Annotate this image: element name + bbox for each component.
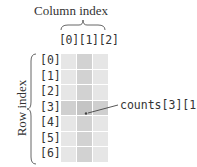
grid-cell-3-2	[93, 101, 108, 116]
grid-cell-3-0	[61, 101, 76, 116]
grid-cell-6-1	[77, 147, 92, 162]
grid-cell-1-1	[77, 70, 92, 85]
row-index-label-0: [0]	[40, 53, 61, 67]
grid-cell-0-1	[77, 54, 92, 69]
row-index-label-4: [4]	[40, 115, 61, 129]
row-index-label-5: [5]	[40, 131, 61, 145]
grid-cell-1-0	[61, 70, 76, 85]
column-axis-title: Column index	[34, 3, 108, 19]
grid-cell-5-2	[93, 132, 108, 147]
grid-cell-4-2	[93, 116, 108, 131]
row-index-label-2: [2]	[40, 84, 61, 98]
grid-cell-6-2	[93, 147, 108, 162]
row-brace-icon	[27, 53, 37, 165]
annotation-label: counts[3][1]	[120, 98, 197, 112]
grid-cell-4-0	[61, 116, 76, 131]
grid-cell-2-1	[77, 85, 92, 100]
row-index-label-3: [3]	[40, 100, 61, 114]
row-index-label-1: [1]	[40, 69, 61, 83]
grid-cell-0-2	[93, 54, 108, 69]
grid-cell-5-1	[77, 132, 92, 147]
grid-cell-2-0	[61, 85, 76, 100]
column-brace-icon	[60, 19, 106, 31]
grid-cell-6-0	[61, 147, 76, 162]
grid-cell-0-0	[61, 54, 76, 69]
grid-cell-5-0	[61, 132, 76, 147]
grid-cell-3-1	[77, 101, 92, 116]
grid-cell-4-1	[77, 116, 92, 131]
column-index-labels: [0][1][2]	[59, 33, 119, 47]
grid-cell-1-2	[93, 70, 108, 85]
row-index-label-6: [6]	[40, 146, 61, 160]
grid-cell-2-2	[93, 85, 108, 100]
